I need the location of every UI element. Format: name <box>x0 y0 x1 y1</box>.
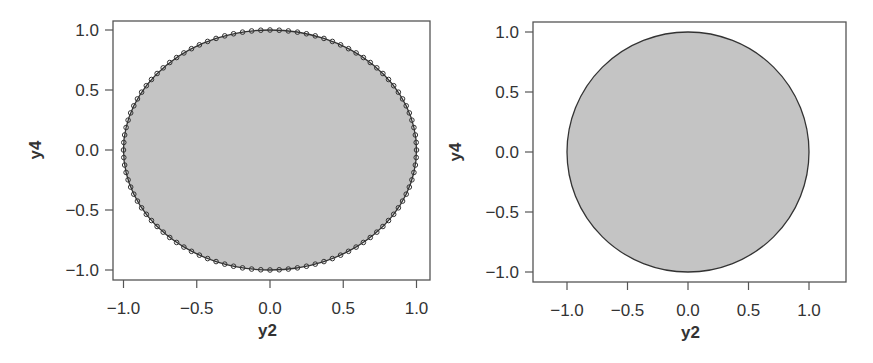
x-tick-label: 0.0 <box>676 301 700 320</box>
x-axis: −1.0−0.50.00.51.0y2 <box>107 280 429 340</box>
x-axis: −1.0−0.50.00.51.0y2 <box>550 282 821 342</box>
y-tick-label: 0.5 <box>75 81 99 100</box>
y-tick-label: 0.0 <box>495 143 519 162</box>
x-tick-label: 1.0 <box>797 301 821 320</box>
y-tick-label: −0.5 <box>65 201 99 220</box>
x-axis-label: y2 <box>681 323 700 342</box>
filled-circle-region <box>124 30 417 270</box>
filled-circle-region <box>567 32 809 272</box>
y-tick-label: 1.0 <box>75 21 99 40</box>
y-axis: −1.0−0.50.00.51.0y4 <box>26 21 113 280</box>
y-axis: −1.0−0.50.00.51.0y4 <box>446 23 533 282</box>
y-tick-label: −1.0 <box>485 263 519 282</box>
x-tick-label: −1.0 <box>107 299 141 318</box>
x-axis-label: y2 <box>258 321 277 340</box>
x-tick-label: 0.5 <box>331 299 355 318</box>
right-panel: −1.0−0.50.00.51.0y2−1.0−0.50.00.51.0y4 <box>446 22 846 342</box>
y-tick-label: −0.5 <box>485 203 519 222</box>
x-tick-label: 1.0 <box>405 299 429 318</box>
y-tick-label: 0.5 <box>495 83 519 102</box>
y-tick-label: −1.0 <box>65 261 99 280</box>
x-tick-label: −0.5 <box>180 299 214 318</box>
x-tick-label: 0.0 <box>258 299 282 318</box>
figure: −1.0−0.50.00.51.0y2−1.0−0.50.00.51.0y4 −… <box>0 0 873 363</box>
y-tick-label: 1.0 <box>495 23 519 42</box>
y-axis-label: y4 <box>446 142 465 161</box>
y-tick-label: 0.0 <box>75 141 99 160</box>
x-tick-label: −0.5 <box>611 301 645 320</box>
left-panel: −1.0−0.50.00.51.0y2−1.0−0.50.00.51.0y4 <box>26 21 430 340</box>
x-tick-label: 0.5 <box>737 301 761 320</box>
x-tick-label: −1.0 <box>550 301 584 320</box>
y-axis-label: y4 <box>26 140 45 159</box>
